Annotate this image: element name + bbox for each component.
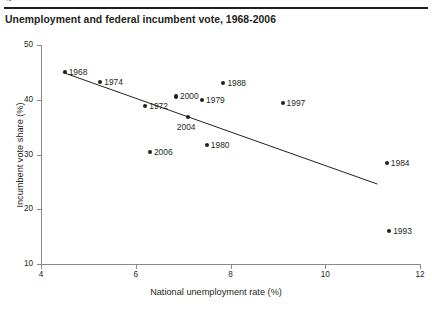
data-point	[387, 229, 391, 233]
x-axis-tick	[325, 265, 326, 269]
data-point-label: 2004	[177, 122, 196, 132]
x-axis-tick	[420, 265, 421, 269]
y-axis-tick	[37, 155, 41, 156]
y-axis-tick	[37, 45, 41, 46]
data-point-label: 1984	[391, 158, 410, 168]
data-point-label: 2006	[154, 147, 173, 157]
data-point	[281, 101, 285, 105]
scatter-plot: 1020304050468101219681974197220062000200…	[0, 0, 432, 309]
data-point	[148, 150, 152, 154]
data-point-label: 1980	[211, 140, 230, 150]
figure-container: g Unemployment and federal incumbent vot…	[0, 0, 432, 309]
y-axis-title: Incumbent vote share (%)	[15, 45, 25, 265]
trend-line	[0, 0, 432, 309]
data-point-label: 1979	[206, 95, 225, 105]
x-axis-tick-label: 8	[219, 270, 243, 279]
data-point-label: 1968	[69, 67, 88, 77]
x-axis-tick-label: 6	[124, 270, 148, 279]
x-axis-tick	[231, 265, 232, 269]
data-point-label: 1972	[149, 101, 168, 111]
data-point-label: 1993	[393, 226, 412, 236]
y-axis-tick	[37, 100, 41, 101]
data-point-label: 1974	[104, 77, 123, 87]
x-axis-tick-label: 12	[408, 270, 432, 279]
data-point	[205, 143, 209, 147]
x-axis-title: National unemployment rate (%)	[0, 287, 432, 297]
data-point	[174, 94, 178, 98]
x-axis-tick	[41, 265, 42, 269]
x-axis-tick-label: 4	[29, 270, 53, 279]
x-axis-tick	[136, 265, 137, 269]
x-axis-tick-label: 10	[313, 270, 337, 279]
data-point-label: 2000	[180, 91, 199, 101]
y-axis-tick	[37, 209, 41, 210]
data-point-label: 1988	[227, 78, 246, 88]
data-point-label: 1997	[287, 98, 306, 108]
